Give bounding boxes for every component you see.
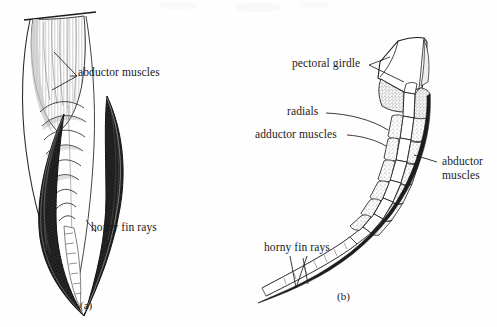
figure-artwork <box>0 0 497 327</box>
panel-b-artwork <box>258 38 437 303</box>
label-horny-fin-rays-b: horny fin rays <box>264 241 330 254</box>
label-radials: radials <box>287 105 318 118</box>
radial-head <box>404 83 417 95</box>
label-pectoral-girdle: pectoral girdle <box>292 57 360 70</box>
caption-panel-a: (a) <box>80 299 92 311</box>
leader-adductor-muscles <box>347 135 386 146</box>
label-adductor-muscles: adductor muscles <box>255 128 337 141</box>
radial-block-1 <box>403 92 415 118</box>
label-abductor-muscles-b: abductor muscles <box>442 155 483 182</box>
label-horny-fin-rays-a: horny fin rays <box>91 221 157 234</box>
panel-a-artwork <box>23 12 124 316</box>
label-abductor-muscles-a: abductor muscles <box>78 66 160 79</box>
caption-panel-b: (b) <box>337 290 350 302</box>
fin-ray-midline <box>68 106 72 240</box>
figure-container: abductor muscles horny fin rays (a) pect… <box>0 0 497 327</box>
